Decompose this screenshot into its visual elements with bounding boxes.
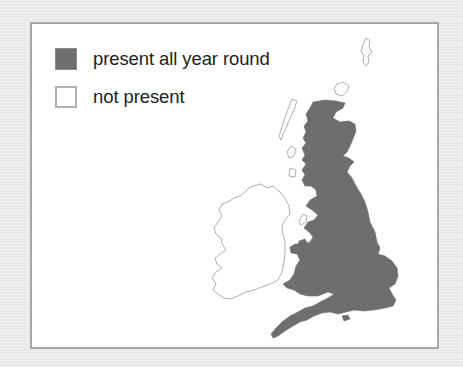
present-swatch-icon xyxy=(55,48,77,70)
legend-label-not-present: not present xyxy=(93,86,184,108)
not-present-swatch-icon xyxy=(55,86,77,108)
legend-label-present: present all year round xyxy=(93,48,270,70)
legend-item-not-present: not present xyxy=(55,86,270,108)
legend-item-present: present all year round xyxy=(55,48,270,70)
map-panel: present all year round not present xyxy=(30,22,439,349)
map-legend: present all year round not present xyxy=(55,48,270,124)
